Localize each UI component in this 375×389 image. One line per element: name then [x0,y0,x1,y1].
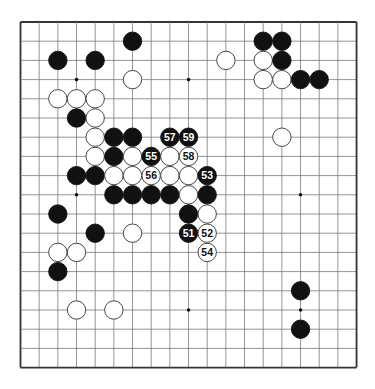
black-stone[interactable] [291,282,309,300]
white-stone[interactable]: 56 [142,166,160,184]
star-point [75,193,79,197]
white-stone[interactable] [86,90,104,108]
black-stone[interactable] [161,186,179,204]
black-stone[interactable] [49,205,67,223]
black-stone-circle [123,186,141,204]
move-number-label: 51 [183,227,195,239]
black-stone-circle [273,51,291,69]
white-stone[interactable] [67,301,85,319]
white-stone-circle [217,51,235,69]
black-stone[interactable] [67,109,85,127]
move-number-label: 54 [201,246,213,258]
white-stone-circle [67,301,85,319]
black-stone-circle [86,224,104,242]
move-number-label: 59 [183,131,195,143]
black-stone[interactable] [86,51,104,69]
white-stone[interactable] [254,51,272,69]
move-number-label: 56 [145,169,157,181]
black-stone[interactable] [273,32,291,50]
white-stone-circle [273,70,291,88]
move-number-label: 57 [164,131,176,143]
white-stone[interactable] [86,109,104,127]
white-stone[interactable] [179,186,197,204]
black-stone[interactable] [105,128,123,146]
black-stone[interactable] [291,320,309,338]
black-stone[interactable] [123,128,141,146]
white-stone[interactable] [254,70,272,88]
star-point [299,308,303,312]
white-stone[interactable] [217,51,235,69]
white-stone[interactable] [49,243,67,261]
black-stone-circle [198,186,216,204]
go-board[interactable]: 575955585653515254 [0,0,375,389]
white-stone[interactable] [86,147,104,165]
black-stone[interactable]: 51 [179,224,197,242]
white-stone[interactable]: 58 [179,147,197,165]
white-stone-circle [86,90,104,108]
white-stone-circle [105,166,123,184]
white-stone[interactable] [198,205,216,223]
black-stone-circle [86,51,104,69]
white-stone[interactable]: 52 [198,224,216,242]
white-stone-circle [123,224,141,242]
black-stone[interactable] [179,205,197,223]
black-stone[interactable] [291,70,309,88]
black-stone[interactable] [123,186,141,204]
black-stone[interactable] [142,186,160,204]
black-stone[interactable] [67,166,85,184]
black-stone[interactable]: 55 [142,147,160,165]
black-stone-circle [291,320,309,338]
black-stone-circle [123,32,141,50]
white-stone[interactable] [67,243,85,261]
black-stone-circle [49,51,67,69]
star-point [187,308,191,312]
white-stone[interactable] [105,166,123,184]
star-point [187,78,191,82]
white-stone-circle [105,301,123,319]
white-stone[interactable] [123,70,141,88]
black-stone[interactable]: 57 [161,128,179,146]
white-stone[interactable] [123,147,141,165]
black-stone-circle [273,32,291,50]
move-number-label: 53 [201,169,213,181]
white-stone[interactable] [161,166,179,184]
white-stone[interactable] [105,301,123,319]
move-number-label: 52 [201,227,213,239]
white-stone-circle [67,90,85,108]
white-stone-circle [86,147,104,165]
white-stone[interactable] [67,90,85,108]
white-stone-circle [198,205,216,223]
black-stone[interactable] [123,32,141,50]
white-stone[interactable] [86,128,104,146]
black-stone-circle [179,205,197,223]
black-stone[interactable] [105,147,123,165]
white-stone-circle [86,128,104,146]
black-stone[interactable]: 59 [179,128,197,146]
black-stone[interactable] [105,186,123,204]
black-stone[interactable] [310,70,328,88]
white-stone[interactable] [123,166,141,184]
black-stone[interactable] [49,262,67,280]
white-stone[interactable]: 54 [198,243,216,261]
black-stone[interactable] [49,51,67,69]
black-stone[interactable]: 53 [198,166,216,184]
white-stone[interactable] [123,224,141,242]
move-number-label: 55 [145,150,157,162]
white-stone-circle [161,147,179,165]
move-number-label: 58 [183,150,195,162]
white-stone[interactable] [161,147,179,165]
white-stone[interactable] [49,90,67,108]
black-stone[interactable] [273,51,291,69]
white-stone[interactable] [273,70,291,88]
black-stone[interactable] [86,224,104,242]
black-stone[interactable] [254,32,272,50]
white-stone[interactable] [179,166,197,184]
black-stone-circle [49,262,67,280]
white-stone-circle [161,166,179,184]
white-stone-circle [254,51,272,69]
black-stone-circle [67,166,85,184]
black-stone[interactable] [86,166,104,184]
black-stone[interactable] [198,186,216,204]
white-stone[interactable] [273,128,291,146]
black-stone-circle [67,109,85,127]
